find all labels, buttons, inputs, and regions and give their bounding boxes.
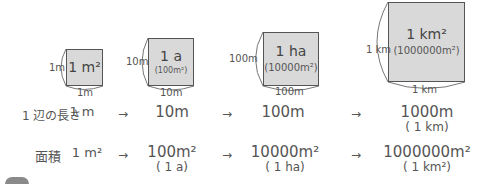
square-1-bottom-label: 1m xyxy=(77,87,93,98)
arrow-icon: → xyxy=(118,148,128,162)
area-3: 10000m² ( 1 ha) xyxy=(235,144,335,174)
square-2-bottom-label: 10m xyxy=(160,87,182,98)
square-3-bottom-label: 100m xyxy=(275,86,304,97)
area-label: 面積 xyxy=(35,146,61,165)
square-2-sub: (100m²) xyxy=(155,66,188,76)
side-length-3: 100m xyxy=(248,104,318,121)
square-1-main: 1 m² xyxy=(68,60,101,75)
area-4: 1000000m² ( 1 km²) xyxy=(367,144,481,174)
square-3-left-label: 100m xyxy=(229,53,258,64)
square-3-sub: (10000m²) xyxy=(264,62,317,74)
area-1: 1 m² xyxy=(62,146,112,160)
square-2-main: 1 a xyxy=(160,49,182,64)
arrow-icon: → xyxy=(351,107,361,121)
arrow-icon: → xyxy=(222,148,232,162)
square-1km2: 1 km² (1000000m²) xyxy=(388,2,465,82)
square-1ha: 1 ha (10000m²) xyxy=(263,32,319,86)
decorative-tab-shape xyxy=(5,177,29,184)
square-4-main: 1 km² xyxy=(406,27,447,42)
side-length-4: 1000m ( 1 km) xyxy=(382,104,472,134)
arrow-icon: → xyxy=(351,148,361,162)
square-4-sub: (1000000m²) xyxy=(393,45,459,57)
side-length-2: 10m xyxy=(142,104,202,121)
arrow-icon: → xyxy=(118,107,128,121)
square-4-bottom-label: 1 km xyxy=(412,84,437,95)
square-2-left-label: 10m xyxy=(126,56,148,67)
area-2: 100m² ( 1 a) xyxy=(132,144,212,174)
square-3-main: 1 ha xyxy=(276,44,307,59)
square-4-left-label: 1 km xyxy=(366,44,391,55)
square-1a: 1 a (100m²) xyxy=(148,38,194,86)
square-1-left-label: 1m xyxy=(49,62,65,73)
arrow-icon: → xyxy=(222,107,232,121)
square-1m2: 1 m² xyxy=(66,49,103,86)
side-length-1: 1 m xyxy=(60,105,104,119)
